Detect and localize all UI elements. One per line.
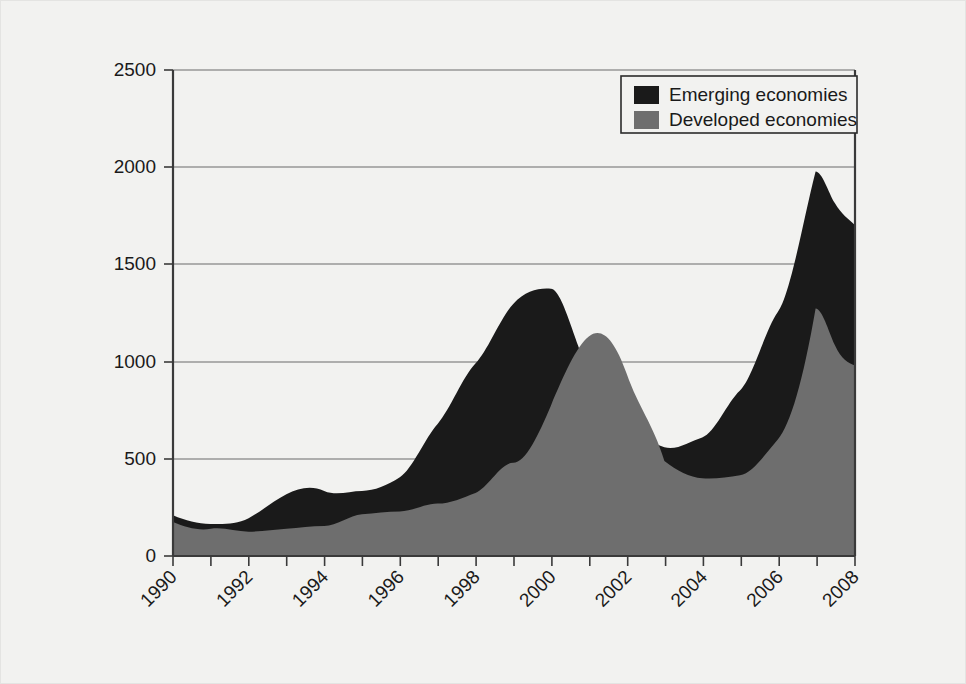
x-axis-ticks [173, 556, 855, 566]
legend-swatch-developed-icon [634, 111, 659, 129]
legend-label-developed: Developed economies [669, 109, 857, 130]
xtick-label-1996: 1996 [363, 566, 408, 611]
xtick-label-1994: 1994 [288, 566, 333, 611]
xtick-label-2002: 2002 [591, 566, 636, 611]
ytick-label-500: 500 [124, 448, 156, 469]
xtick-label-2006: 2006 [742, 566, 787, 611]
ytick-label-2500: 2500 [114, 59, 156, 80]
y-axis-ticks [164, 70, 173, 556]
legend-swatch-emerging-icon [634, 86, 659, 104]
ytick-label-1500: 1500 [114, 253, 156, 274]
ytick-label-0: 0 [145, 545, 156, 566]
stacked-area-chart: 2500 2000 1500 1000 500 0 [0, 0, 966, 684]
chart-legend[interactable]: Emerging economies Developed economies [621, 76, 857, 133]
xtick-label-1990: 1990 [136, 566, 181, 611]
xtick-label-2008: 2008 [818, 566, 863, 611]
ytick-label-2000: 2000 [114, 156, 156, 177]
xtick-label-2004: 2004 [666, 566, 711, 611]
xtick-label-2000: 2000 [515, 566, 560, 611]
legend-label-emerging: Emerging economies [669, 84, 847, 105]
xtick-label-1998: 1998 [439, 566, 484, 611]
xtick-label-1992: 1992 [212, 566, 257, 611]
chart-figure: 2500 2000 1500 1000 500 0 [0, 0, 966, 684]
ytick-label-1000: 1000 [114, 351, 156, 372]
